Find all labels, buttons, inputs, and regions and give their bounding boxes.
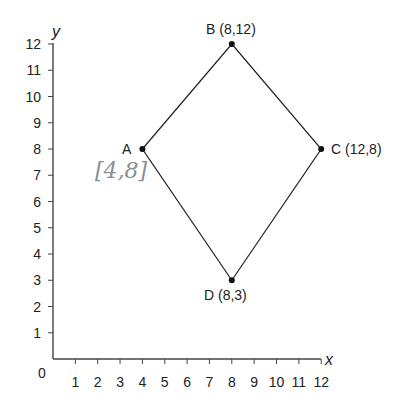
y-tick-label: 4 [33, 246, 41, 262]
coordinate-plane: 123456789101112 123456789101112 x y 0 A … [0, 0, 403, 417]
y-ticks: 123456789101112 [25, 36, 53, 341]
x-tick-label: 5 [161, 374, 169, 390]
points [139, 41, 324, 283]
y-tick-label: 6 [33, 194, 41, 210]
point-b-marker [229, 41, 235, 47]
y-tick-label: 9 [33, 115, 41, 131]
y-tick-label: 10 [25, 89, 41, 105]
x-tick-label: 11 [292, 374, 307, 390]
point-a-label: A [122, 141, 132, 157]
x-tick-label: 9 [250, 374, 258, 390]
y-tick-label: 8 [33, 141, 41, 157]
point-c-label: C (12,8) [331, 141, 382, 157]
x-tick-label: 10 [269, 374, 285, 390]
y-tick-label: 5 [33, 220, 41, 236]
x-tick-label: 7 [206, 374, 214, 390]
point-d-label: D (8,3) [204, 287, 247, 303]
x-tick-label: 12 [313, 374, 329, 390]
handwritten-annotation: [4,8] [95, 158, 148, 183]
origin-label: 0 [38, 365, 46, 381]
x-tick-label: 8 [228, 374, 236, 390]
x-axis-label: x [324, 351, 334, 368]
y-tick-label: 11 [26, 62, 41, 78]
point-a-marker [139, 146, 145, 152]
y-tick-label: 2 [33, 299, 41, 315]
point-b-label: B (8,12) [206, 21, 256, 37]
y-tick-label: 7 [33, 167, 41, 183]
y-tick-label: 3 [33, 272, 41, 288]
y-axis-label: y [51, 23, 61, 40]
point-c-marker [318, 146, 324, 152]
kite-polygon [142, 44, 321, 280]
point-d-marker [229, 277, 235, 283]
x-tick-label: 3 [116, 374, 124, 390]
x-tick-label: 2 [94, 374, 102, 390]
x-tick-label: 6 [183, 374, 191, 390]
y-tick-label: 12 [25, 36, 41, 52]
x-ticks: 123456789101112 [71, 359, 329, 390]
x-tick-label: 4 [139, 374, 147, 390]
x-tick-label: 1 [71, 374, 79, 390]
y-tick-label: 1 [33, 325, 41, 341]
